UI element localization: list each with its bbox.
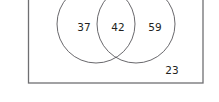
region-label-right-only: 59 <box>148 21 161 33</box>
venn-diagram-svg: 37 42 59 23 <box>0 0 219 102</box>
region-label-intersection: 42 <box>111 21 124 33</box>
venn-diagram-figure: 37 42 59 23 <box>0 0 219 102</box>
region-label-left-only: 37 <box>77 21 90 33</box>
right-set-circle <box>97 0 175 63</box>
region-label-outside-both: 23 <box>165 64 178 76</box>
